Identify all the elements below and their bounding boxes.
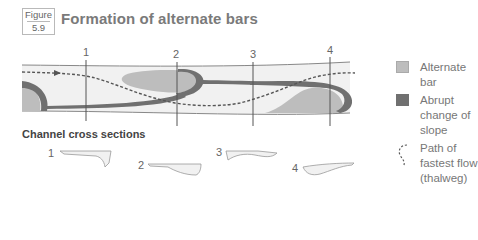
- cross-section-1: [60, 151, 111, 167]
- thalweg-dashed-curve-icon: [396, 143, 409, 167]
- legend-label: Abrupt change of slope: [420, 94, 471, 136]
- legend-item-thalweg: Path of fastest flow (thalweg): [396, 141, 478, 185]
- section-marker-3: 3: [250, 48, 256, 60]
- cross-section-label-1: 1: [48, 147, 54, 159]
- alternate-bar-swatch: [396, 61, 409, 73]
- legend-label: Path of fastest flow (thalweg): [420, 142, 478, 184]
- cross-section-label-2: 2: [138, 159, 144, 171]
- cross-sections-title: Channel cross sections: [22, 128, 146, 140]
- legend-item-abrupt-slope: Abrupt change of slope: [396, 93, 478, 138]
- cross-section-2: [148, 164, 201, 175]
- legend-item-alternate-bar: Alternate bar: [396, 60, 478, 90]
- legend: Alternate bar Abrupt change of slope Pat…: [396, 60, 478, 185]
- cross-section-4: [303, 163, 354, 175]
- section-marker-1: 1: [83, 46, 89, 58]
- section-marker-2: 2: [173, 48, 179, 60]
- abrupt-slope-swatch: [396, 94, 409, 106]
- cross-section-label-3: 3: [216, 146, 222, 158]
- legend-label: Alternate bar: [420, 61, 466, 88]
- cross-section-3: [226, 151, 277, 160]
- section-marker-4: 4: [327, 44, 333, 56]
- cross-section-label-4: 4: [292, 162, 298, 174]
